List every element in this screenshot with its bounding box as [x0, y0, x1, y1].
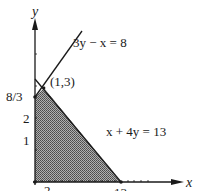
x-tick-label-13: 13 [114, 185, 127, 191]
diagram-canvas: y x 3y − x = 8 x + 4y = 13 (1,3) 8/3 2 1… [0, 0, 200, 191]
point-1-3-label: (1,3) [50, 74, 75, 89]
x-tick-label-2: 2 [44, 183, 51, 191]
point-8-3 [33, 95, 37, 99]
y-axis-label: y [30, 4, 39, 19]
y-tick-label-1: 1 [23, 133, 30, 148]
line-3y-minus-x-label: 3y − x = 8 [73, 35, 127, 50]
line-x-plus-4y-label: x + 4y = 13 [106, 124, 166, 139]
point-1-3 [43, 87, 46, 90]
y-tick-label-8-3: 8/3 [6, 89, 23, 104]
x-axis-arrow-icon [171, 179, 184, 185]
y-axis-arrow-icon [32, 18, 38, 30]
point-13-0 [119, 180, 123, 184]
point-origin [33, 180, 37, 184]
x-axis-label: x [185, 175, 193, 190]
y-tick-label-2: 2 [23, 111, 30, 126]
